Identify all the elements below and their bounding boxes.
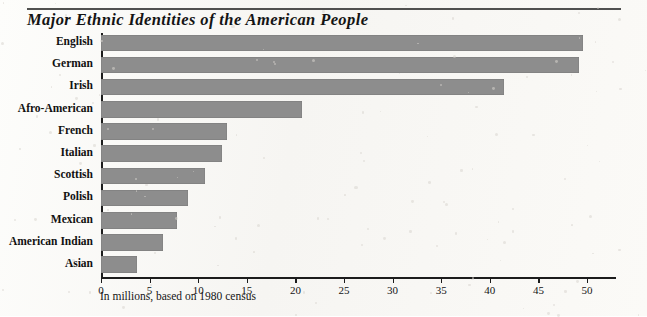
- category-label: Afro-American: [0, 102, 93, 114]
- category-label: Irish: [0, 79, 93, 91]
- bar: [101, 35, 583, 52]
- x-tick: [441, 278, 442, 283]
- x-tick-label: 45: [533, 284, 544, 296]
- bar-row: Afro-American: [0, 100, 647, 122]
- paper-speck: [578, 12, 581, 15]
- bar-row: American Indian: [0, 233, 647, 255]
- category-label: Scottish: [0, 168, 93, 180]
- paper-speck: [618, 18, 621, 21]
- paper-speck: [452, 17, 455, 20]
- paper-speck: [3, 2, 5, 4]
- x-tick-label: 30: [387, 284, 398, 296]
- bar-row: German: [0, 55, 647, 77]
- x-axis-ticks: 05101520253035404550: [0, 278, 647, 308]
- category-label: Asian: [0, 257, 93, 269]
- x-tick-label: 35: [436, 284, 447, 296]
- x-tick: [587, 278, 588, 283]
- bar: [101, 168, 205, 185]
- x-tick-label: 20: [290, 284, 301, 296]
- paper-speck: [55, 3, 56, 4]
- bar-row: Mexican: [0, 211, 647, 233]
- category-label: French: [0, 124, 93, 136]
- bar: [101, 212, 177, 229]
- x-tick-label: 40: [484, 284, 495, 296]
- bar-row: Scottish: [0, 166, 647, 188]
- bar-row: Polish: [0, 188, 647, 210]
- bar-rows: EnglishGermanIrishAfro-AmericanFrenchIta…: [0, 33, 647, 277]
- paper-speck: [295, 314, 297, 316]
- paper-speck: [638, 314, 640, 316]
- x-tick: [393, 278, 394, 283]
- x-tick-label: 25: [339, 284, 350, 296]
- plot-area: EnglishGermanIrishAfro-AmericanFrenchIta…: [0, 30, 647, 280]
- paper-speck: [523, 308, 525, 310]
- paper-speck: [405, 5, 406, 6]
- bar-row: Italian: [0, 144, 647, 166]
- bar: [101, 57, 579, 74]
- bar: [101, 145, 222, 162]
- paper-speck: [547, 312, 550, 315]
- category-label: Mexican: [0, 213, 93, 225]
- bar: [101, 101, 302, 118]
- category-label: American Indian: [0, 235, 93, 247]
- bar-row: French: [0, 122, 647, 144]
- chart-caption: In millions, based on 1980 census: [100, 290, 256, 302]
- category-label: English: [0, 35, 93, 47]
- x-tick: [538, 278, 539, 283]
- x-tick-label: 50: [582, 284, 593, 296]
- x-tick: [101, 278, 102, 283]
- category-label: Italian: [0, 146, 93, 158]
- x-tick: [490, 278, 491, 283]
- chart-title: Major Ethnic Identities of the American …: [27, 10, 368, 30]
- x-tick: [150, 278, 151, 283]
- bar: [101, 256, 137, 273]
- x-tick: [198, 278, 199, 283]
- bar-row: Asian: [0, 255, 647, 277]
- bar: [101, 79, 504, 96]
- bar-row: Irish: [0, 77, 647, 99]
- x-tick: [247, 278, 248, 283]
- x-tick: [295, 278, 296, 283]
- bar: [101, 123, 227, 140]
- category-label: Polish: [0, 190, 93, 202]
- bar: [101, 190, 188, 207]
- bar: [101, 234, 163, 251]
- paper-speck: [557, 314, 560, 317]
- category-label: German: [0, 57, 93, 69]
- x-tick: [344, 278, 345, 283]
- bar-row: English: [0, 33, 647, 55]
